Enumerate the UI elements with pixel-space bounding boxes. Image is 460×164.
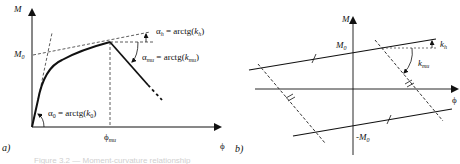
x-axis-label-phi: ϕ <box>220 141 225 151</box>
panel-b-label: b) <box>235 143 244 155</box>
right-unloading-dashed <box>375 40 443 121</box>
m0-label: M0 <box>13 49 25 60</box>
alpha-0-annotation: α0 = arctg(k0) <box>48 108 96 119</box>
phi-mu-label: ϕmu <box>104 132 116 143</box>
lower-yield-line <box>293 109 452 136</box>
kh-label: kh <box>440 39 447 50</box>
alpha-0-arc <box>38 114 44 127</box>
left-double-tick <box>286 94 295 101</box>
y-axis-label-m-b: M <box>341 14 350 24</box>
y-axis-label-m: M <box>13 4 22 14</box>
alpha-mu-annotation: αmu = arctg(kmu) <box>142 52 199 63</box>
alpha-mu-arc <box>132 42 138 62</box>
softening-branch <box>110 42 148 85</box>
panel-b: M M0 -M0 kh kmu ϕ b) <box>235 14 457 155</box>
panel-a: M M0 αh = arctg(kh) αmu = arctg(kmu) α0 … <box>2 4 225 154</box>
x-axis-label-phi-b: ϕ <box>452 95 457 105</box>
panel-a-label: a) <box>2 142 11 154</box>
neg-m0-label-b: -M0 <box>356 132 370 143</box>
hardening-line-dashed <box>33 32 150 55</box>
left-unloading-dashed <box>258 64 325 143</box>
alpha-h-annotation: αh = arctg(kh) <box>156 26 204 37</box>
figure-canvas: M M0 αh = arctg(kh) αmu = arctg(kmu) α0 … <box>0 0 460 164</box>
kmu-arc <box>404 48 412 73</box>
kmu-label: kmu <box>418 58 429 69</box>
softening-branch-dashed <box>148 85 162 100</box>
figure-caption: Figure 3.2 — Moment-curvature relationsh… <box>34 156 191 164</box>
m0-label-b: M0 <box>335 40 347 51</box>
right-double-tick <box>405 80 414 87</box>
